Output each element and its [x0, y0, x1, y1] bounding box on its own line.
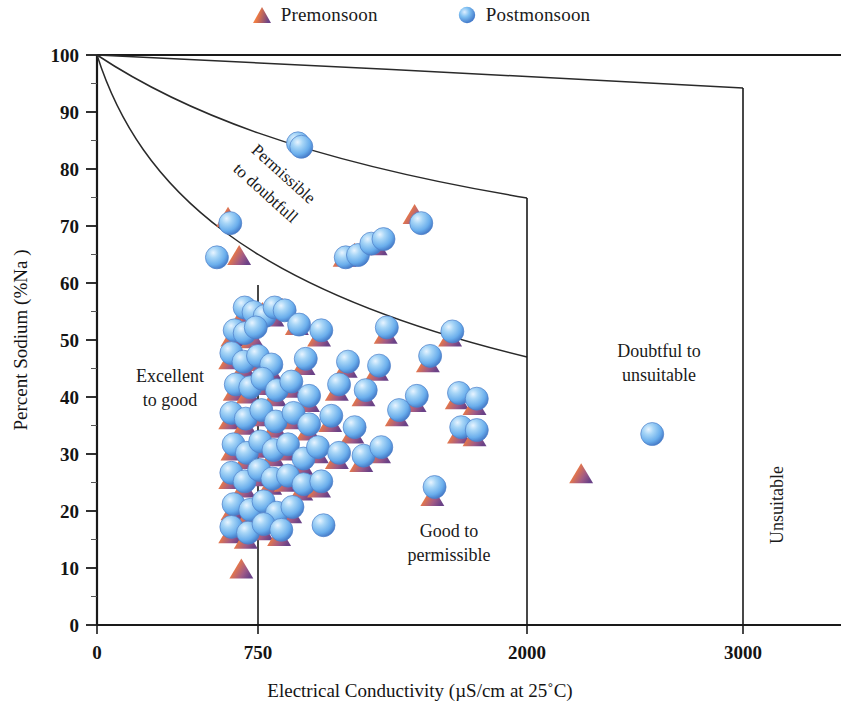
y-tick-label-80: 80 [60, 159, 79, 180]
y-tick-0: 0 [70, 615, 98, 636]
y-tick-80: 80 [60, 159, 97, 180]
x-tick-label-2000: 2000 [508, 642, 546, 663]
data-point-postmonsoon [419, 344, 442, 367]
data-point-postmonsoon [336, 350, 359, 373]
data-point-postmonsoon [410, 212, 433, 235]
data-point-postmonsoon [465, 387, 488, 410]
data-point-postmonsoon [328, 373, 351, 396]
x-axis-ticks: 0 750 2000 3000 [92, 625, 762, 663]
x-tick-2000: 2000 [508, 625, 546, 663]
data-point-postmonsoon [465, 419, 488, 442]
data-point-postmonsoon [354, 379, 377, 402]
data-point-postmonsoon [219, 212, 242, 235]
data-point-postmonsoon [423, 476, 446, 499]
data-point-postmonsoon [310, 470, 333, 493]
y-axis-title: Percent Sodium (%Na ) [10, 250, 32, 431]
y-tick-label-60: 60 [60, 273, 79, 294]
data-point-postmonsoon [310, 319, 333, 342]
data-point-postmonsoon [441, 320, 464, 343]
data-point-postmonsoon [298, 413, 321, 436]
y-tick-label-100: 100 [51, 45, 80, 66]
data-point-postmonsoon [306, 436, 329, 459]
permissible-doubtful-boundary [97, 55, 527, 198]
data-point-postmonsoon [270, 518, 293, 541]
y-tick-label-10: 10 [60, 558, 79, 579]
y-tick-label-30: 30 [60, 444, 79, 465]
data-point-postmonsoon [328, 441, 351, 464]
excellent-permissible-boundary [97, 55, 527, 357]
data-point-postmonsoon [370, 436, 393, 459]
y-tick-label-90: 90 [60, 102, 79, 123]
data-point-postmonsoon [290, 135, 313, 158]
data-point-premonsoon [569, 463, 593, 483]
y-tick-30: 30 [60, 444, 97, 465]
y-tick-label-50: 50 [60, 330, 79, 351]
wilcox-diagram-page: Premonsoon Postmonsoon [0, 0, 841, 703]
data-point-postmonsoon [368, 354, 391, 377]
doubtful-unsuitable-boundary [97, 55, 743, 88]
data-point-postmonsoon [288, 313, 311, 336]
y-tick-40: 40 [60, 387, 97, 408]
x-tick-0: 0 [92, 625, 102, 663]
region-label-unsuitable: Unsuitable [767, 466, 787, 544]
data-point-postmonsoon [312, 514, 335, 537]
region-label-excellent-line2: to good [143, 390, 198, 410]
data-point-postmonsoon [343, 416, 366, 439]
y-tick-label-40: 40 [60, 387, 79, 408]
x-tick-label-0: 0 [92, 642, 102, 663]
data-point-postmonsoon [281, 496, 304, 519]
data-point-postmonsoon [641, 423, 664, 446]
x-tick-label-750: 750 [244, 642, 273, 663]
y-tick-10: 10 [60, 558, 97, 579]
region-label-doubtful-line1: Doubtful to [617, 341, 701, 361]
x-tick-3000: 3000 [724, 625, 762, 663]
y-tick-60: 60 [60, 273, 97, 294]
y-tick-label-20: 20 [60, 501, 79, 522]
y-tick-90: 90 [60, 102, 97, 123]
wilcox-plot: 100 90 80 70 60 50 [0, 0, 841, 703]
region-label-excellent-line1: Excellent [136, 366, 204, 386]
y-tick-label-0: 0 [70, 615, 80, 636]
data-point-postmonsoon [375, 316, 398, 339]
y-axis-ticks: 100 90 80 70 60 50 [51, 45, 98, 636]
data-point-postmonsoon [388, 399, 411, 422]
region-label-good-line2: permissible [408, 545, 491, 565]
y-tick-label-70: 70 [60, 216, 79, 237]
y-tick-50: 50 [60, 330, 97, 351]
data-point-premonsoon [229, 558, 253, 578]
data-point-postmonsoon [320, 404, 343, 427]
region-label-doubtful-line2: unsuitable [622, 365, 696, 385]
data-point-postmonsoon [205, 246, 228, 269]
data-point-postmonsoon [372, 228, 395, 251]
y-tick-20: 20 [60, 501, 97, 522]
x-axis-title: Electrical Conductivity (µS/cm at 25˚C) [267, 680, 572, 702]
y-tick-100: 100 [51, 45, 98, 66]
data-point-postmonsoon [244, 316, 267, 339]
y-tick-70: 70 [60, 216, 97, 237]
x-tick-label-3000: 3000 [724, 642, 762, 663]
data-point-postmonsoon [294, 347, 317, 370]
x-tick-750: 750 [244, 625, 273, 663]
region-label-good-line1: Good to [420, 521, 479, 541]
